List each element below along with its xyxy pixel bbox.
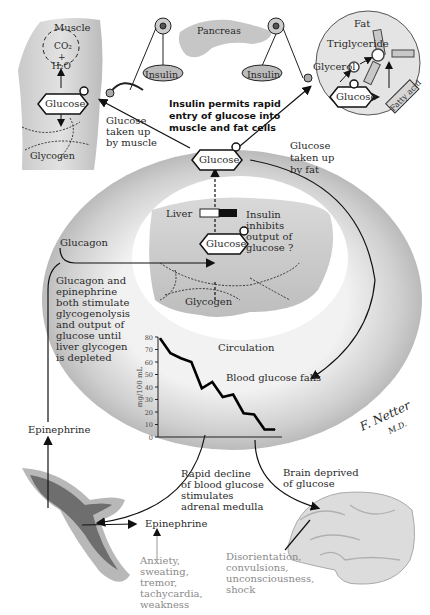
chart-y-tick-label: 0 xyxy=(149,434,153,442)
insulin-note-line4: glucose ? xyxy=(246,242,293,254)
chart-data-point xyxy=(159,338,160,339)
chart-y-tick-label: 20 xyxy=(145,409,153,417)
chart-data-point xyxy=(233,394,234,395)
chart-data-point xyxy=(274,429,275,430)
glucagon-label: Glucagon xyxy=(60,237,108,249)
insulin-left-label: Insulin xyxy=(145,69,178,81)
muscle-label: Muscle xyxy=(54,22,91,34)
chart-data-point xyxy=(264,429,265,430)
brain-symptom-4: shock xyxy=(226,584,255,596)
chart-data-point xyxy=(170,353,171,354)
blood-glucose-falls-label: Blood glucose falls xyxy=(226,372,321,384)
h2o-label: H₂O xyxy=(52,60,71,72)
muscle-glycogen-label: Glycogen xyxy=(30,150,75,162)
muscle-glucose-label: Glucose xyxy=(45,98,85,110)
liver-label: Liver xyxy=(166,208,192,220)
insulin-caption-line1: Insulin permits rapid xyxy=(169,98,281,110)
triglyceride-label: Triglyceride xyxy=(327,38,389,50)
fat-uptake-line2: taken up xyxy=(290,152,334,164)
chart-data-point xyxy=(191,361,192,362)
glycerol-label: Glycerol xyxy=(313,61,355,73)
chart-data-point xyxy=(212,381,213,382)
chart-y-tick-label: 10 xyxy=(145,421,153,429)
adrenal-note-line4: adrenal medulla xyxy=(181,501,263,513)
chart-y-axis-label: mg/100 mL xyxy=(136,366,144,407)
chart-y-tick-label: 70 xyxy=(145,346,153,354)
liver-glucose-label: Glucose xyxy=(206,238,246,250)
chart-data-point xyxy=(243,413,244,414)
pulley-left xyxy=(106,18,183,97)
pancreas-label: Pancreas xyxy=(197,25,241,37)
muscle-uptake-line3: by muscle xyxy=(106,137,157,149)
fat-label: Fat xyxy=(354,18,370,30)
adrenal-epinephrine-label: Epinephrine xyxy=(145,518,207,530)
fat-uptake-line3: by fat xyxy=(290,164,319,176)
epinephrine-top-label: Epinephrine xyxy=(28,424,90,436)
blood-glucose-label: Glucose xyxy=(199,154,239,166)
chart-y-tick-label: 50 xyxy=(145,371,153,379)
chart-y-tick-label: 80 xyxy=(145,334,153,342)
chart-data-point xyxy=(253,414,254,415)
inhibition-bar xyxy=(200,209,237,217)
fat-glucose-label: Glucose xyxy=(336,91,376,103)
adrenal-symptom-5: weakness xyxy=(140,599,189,611)
circulation-label: Circulation xyxy=(218,342,275,354)
insulin-right-label: Insulin xyxy=(247,69,280,81)
fat-uptake-line1: Glucose xyxy=(290,140,330,152)
glucagon-note-line8: is depleted xyxy=(56,352,112,364)
brain-note-line2: of glucose xyxy=(283,478,335,490)
chart-y-tick-label: 30 xyxy=(145,396,153,404)
chart-data-point xyxy=(201,388,202,389)
chart-y-tick-label: 60 xyxy=(145,359,153,367)
brain xyxy=(288,492,415,584)
chart-data-point xyxy=(222,396,223,397)
chart-data-point xyxy=(180,358,181,359)
chart-y-tick-label: 40 xyxy=(145,384,153,392)
insulin-caption-line3: muscle and fat cells xyxy=(169,122,276,134)
insulin-caption-line2: entry of glucose into xyxy=(169,110,280,122)
liver-glycogen-label: Glycogen xyxy=(185,296,232,308)
